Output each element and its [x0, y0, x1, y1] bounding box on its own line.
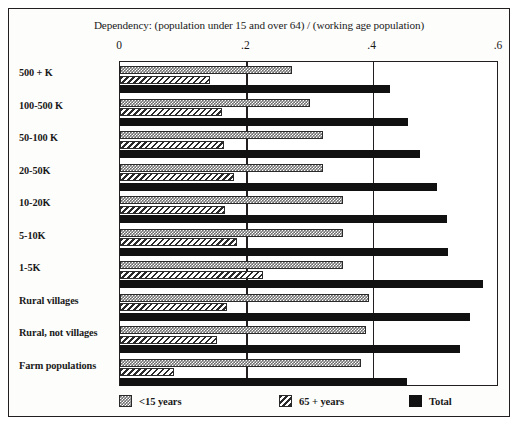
bar — [120, 326, 366, 334]
legend-swatch-total — [409, 395, 422, 407]
chart-title: Dependency: (population under 15 and ove… — [9, 19, 509, 31]
bar — [120, 229, 343, 237]
bar — [120, 294, 369, 302]
category-label: 1-5K — [19, 262, 117, 273]
legend-item: 65 + years — [279, 395, 344, 407]
bar-group — [120, 192, 497, 225]
bars-layer — [120, 62, 497, 385]
legend-label: 65 + years — [299, 396, 344, 407]
bar — [120, 313, 470, 321]
bar — [120, 173, 234, 181]
bar-group — [120, 290, 497, 323]
bar — [120, 85, 390, 93]
category-label: Rural villages — [19, 295, 117, 306]
category-label: 100-500 K — [19, 100, 117, 111]
category-label: Farm populations — [19, 360, 117, 371]
bar — [120, 359, 361, 367]
bar — [120, 206, 225, 214]
legend-label: Total — [429, 396, 452, 407]
x-axis-tick-labels: 0.2.4.6 — [9, 39, 509, 55]
bar — [120, 183, 437, 191]
bar — [120, 238, 237, 246]
bar — [120, 141, 224, 149]
bar — [120, 368, 174, 376]
bar-group — [120, 257, 497, 290]
bar-group — [120, 95, 497, 128]
bar-group — [120, 225, 497, 258]
category-label: Rural, not villages — [19, 327, 117, 338]
bar — [120, 271, 263, 279]
category-label: 20-50K — [19, 165, 117, 176]
bar-group — [120, 160, 497, 193]
chart-legend: <15 years65 + yearsTotal — [119, 395, 498, 413]
legend-item: Total — [409, 395, 452, 407]
bar — [120, 378, 407, 386]
legend-item: <15 years — [119, 395, 182, 407]
x-tick-label-3: .6 — [494, 39, 503, 51]
bar — [120, 99, 310, 107]
bar — [120, 164, 323, 172]
category-label: 5-10K — [19, 230, 117, 241]
bar — [120, 150, 420, 158]
x-tick-label-0: 0 — [116, 39, 122, 51]
x-tick-label-1: .2 — [241, 39, 250, 51]
category-label: 500 + K — [19, 67, 117, 78]
bar — [120, 108, 222, 116]
bar-group — [120, 355, 497, 388]
bar — [120, 303, 227, 311]
x-tick-label-2: .4 — [367, 39, 376, 51]
bar — [120, 336, 217, 344]
bar — [120, 76, 210, 84]
legend-label: <15 years — [139, 396, 182, 407]
plot-area — [119, 61, 498, 386]
bar — [120, 261, 343, 269]
chart-figure: Dependency: (population under 15 and ove… — [8, 8, 510, 417]
bar — [120, 118, 408, 126]
bar — [120, 66, 292, 74]
category-label: 50-100 K — [19, 132, 117, 143]
bar-group — [120, 322, 497, 355]
category-axis-labels: 500 + K100-500 K50-100 K20-50K10-20K5-10… — [19, 61, 119, 386]
bar-group — [120, 62, 497, 95]
bar-group — [120, 127, 497, 160]
category-label: 10-20K — [19, 197, 117, 208]
legend-swatch-over65 — [279, 395, 292, 407]
legend-swatch-under15 — [119, 395, 132, 407]
bar — [120, 196, 343, 204]
bar — [120, 131, 323, 139]
bar — [120, 345, 460, 353]
bar — [120, 248, 448, 256]
bar — [120, 215, 447, 223]
bar — [120, 280, 483, 288]
